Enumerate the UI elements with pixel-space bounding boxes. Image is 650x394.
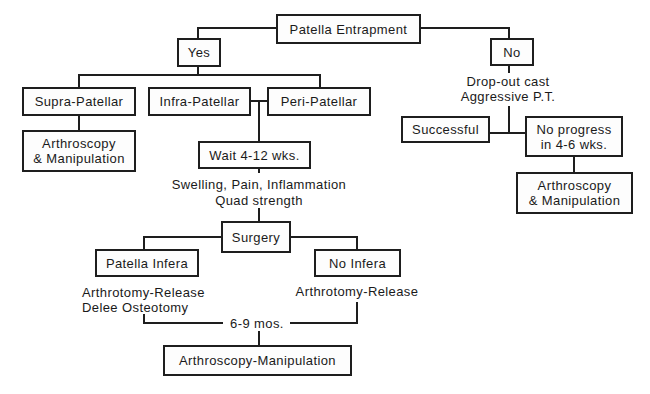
node-wait: Wait 4-12 wks. [198, 141, 311, 169]
flowchart: Patella Entrapment Yes No Supra-Patellar… [0, 0, 650, 394]
node-patella-infera: Patella Infera [95, 249, 199, 277]
node-label: Surgery [232, 230, 280, 245]
connector-root-no [419, 27, 510, 29]
node-label: Arthroscopy & Manipulation [33, 136, 125, 166]
node-arthroscopy-manipulation-final: Arthroscopy-Manipulation [163, 345, 352, 376]
node-label: Successful [412, 122, 479, 137]
node-label: Wait 4-12 wks. [209, 148, 299, 163]
node-infra-patellar: Infra-Patellar [148, 87, 251, 116]
node-yes: Yes [177, 38, 221, 67]
connector-to-wait [258, 100, 260, 142]
connector-surgery-left-drop [143, 236, 145, 250]
connector-supra-drop [78, 74, 80, 88]
connector-no-down [508, 65, 510, 73]
no-infera-treatment: Arthrotomy-Release [292, 284, 422, 299]
node-label: Yes [188, 45, 210, 60]
connector-dropout-down [508, 106, 510, 134]
node-arthroscopy-manipulation-right: Arthroscopy & Manipulation [516, 172, 633, 214]
interval-label: 6-9 mos. [223, 316, 291, 331]
dropout-line-2: Aggressive P.T. [443, 89, 573, 104]
connector-interval-left [143, 322, 223, 324]
criteria-line-2: Quad strength [159, 193, 359, 208]
node-label: Supra-Patellar [35, 94, 124, 109]
connector-yes-branches [78, 74, 321, 76]
connector-root-yes [197, 27, 277, 29]
node-label: Patella Infera [106, 256, 188, 271]
connector-to-surgery [258, 208, 260, 222]
node-arthroscopy-manipulation-left: Arthroscopy & Manipulation [22, 130, 136, 172]
dropout-line-1: Drop-out cast [443, 74, 573, 89]
node-label: No progress in 4-6 wks. [536, 122, 611, 152]
node-no: No [490, 38, 534, 66]
connector-supra-arthro [78, 114, 80, 131]
node-peri-patellar: Peri-Patellar [267, 87, 371, 116]
infera-treatment-line-1: Arthrotomy-Release [82, 285, 205, 300]
connector-interval-right [290, 322, 358, 324]
infera-treatment-line-2: Delee Osteotomy [82, 300, 188, 315]
node-label: Infra-Patellar [159, 94, 239, 109]
node-label: Arthroscopy-Manipulation [179, 353, 336, 368]
node-label: No [503, 45, 520, 60]
connector-successful-noprogress [489, 132, 526, 134]
criteria-line-1: Swelling, Pain, Inflammation [159, 177, 359, 192]
node-supra-patellar: Supra-Patellar [22, 87, 136, 116]
connector-surgery-right [290, 236, 358, 238]
node-label: No Infera [329, 256, 386, 271]
connector-surgery-right-drop [356, 236, 358, 250]
node-label: Peri-Patellar [281, 94, 358, 109]
connector-peri-drop [319, 74, 321, 88]
node-patella-entrapment: Patella Entrapment [276, 14, 421, 44]
node-label: Patella Entrapment [290, 22, 408, 37]
connector-noprogress-arthro [573, 156, 575, 173]
connector-no-infera-tx-down [356, 302, 358, 324]
node-label: Arthroscopy & Manipulation [529, 178, 621, 208]
connector-surgery-left [143, 236, 222, 238]
connector-to-final [258, 331, 260, 346]
node-successful: Successful [401, 116, 490, 143]
node-surgery: Surgery [221, 221, 291, 253]
node-no-infera: No Infera [314, 249, 401, 277]
node-no-progress: No progress in 4-6 wks. [525, 116, 623, 157]
